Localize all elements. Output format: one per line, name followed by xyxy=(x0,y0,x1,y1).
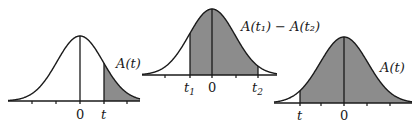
normal-curves-diagram: A(t) 0 t A(t₁) − A(t₂) 0 t1 t2 A(t) 0 t xyxy=(0,0,419,124)
zero-label-p1: 0 xyxy=(76,107,84,122)
t1-label: t1 xyxy=(184,80,195,97)
zero-label-p2: 0 xyxy=(208,80,216,95)
area-label-p3: A(t) xyxy=(379,60,405,75)
area-label-p2: A(t₁) − A(t₂) xyxy=(240,19,320,34)
zero-label-p3: 0 xyxy=(340,108,348,123)
t2-label: t2 xyxy=(252,80,263,97)
t-label-p3: t xyxy=(297,108,303,123)
area-label-p1: A(t) xyxy=(115,56,141,71)
t-label-p1: t xyxy=(101,107,107,122)
